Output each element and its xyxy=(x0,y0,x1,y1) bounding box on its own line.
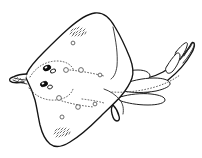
thorn-base xyxy=(98,73,102,77)
snout-tip xyxy=(10,74,27,83)
thorn-base xyxy=(79,68,84,73)
thorn-base xyxy=(57,96,62,101)
figure-root xyxy=(0,0,202,158)
thorn-base xyxy=(76,105,81,110)
thorn-base xyxy=(60,115,64,119)
thorn-base xyxy=(64,68,69,73)
thorn-base xyxy=(71,41,75,45)
pelvic-fin-lower xyxy=(118,94,165,105)
thorn-base xyxy=(93,102,97,106)
skate-line-drawing xyxy=(0,0,202,158)
clasper xyxy=(111,105,119,121)
